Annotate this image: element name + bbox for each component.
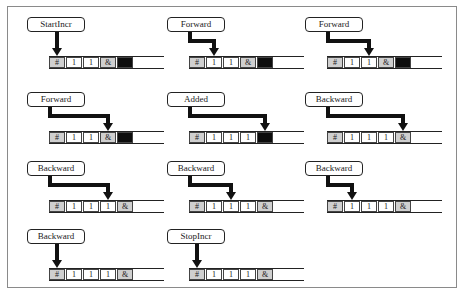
tape-panel: Backward#111& [167, 161, 307, 227]
state-label: Backward [305, 161, 363, 176]
state-label: Backward [305, 92, 363, 107]
tape-panel: Backward#111& [27, 161, 167, 227]
tape-panel: Forward#11& [167, 17, 307, 83]
tape-panel: Backward#111& [305, 161, 445, 227]
tape-panel: Backward#111& [305, 92, 445, 158]
tape-panel: Forward#11& [305, 17, 445, 83]
state-label: Forward [305, 17, 363, 32]
tape-panel: StopIncr#111& [167, 229, 307, 294]
state-label: StopIncr [167, 229, 225, 244]
tape-panel: StartIncr#11& [27, 17, 167, 83]
state-label: Backward [167, 161, 225, 176]
tape-panel: Backward#111& [27, 229, 167, 294]
tape-panel: Added#111 [167, 92, 307, 158]
state-label: Added [167, 92, 225, 107]
state-label: Forward [27, 92, 85, 107]
tape-panel: Forward#11& [27, 92, 167, 158]
state-label: Forward [167, 17, 225, 32]
state-label: Backward [27, 161, 85, 176]
state-label: Backward [27, 229, 85, 244]
state-label: StartIncr [27, 17, 85, 32]
